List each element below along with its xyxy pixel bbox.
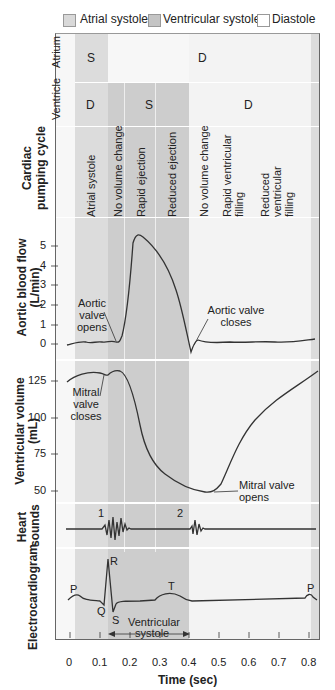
- aortic-tick-4: 4: [40, 259, 46, 271]
- ecg-ylabel: Electrocardiogram: [26, 542, 40, 652]
- mitral-valve-opens-annotation: Mitral valve opens: [239, 479, 299, 503]
- ventricular-volume-curve: [67, 371, 318, 492]
- aortic-ylabel: Aortic blood flow (L/min): [16, 225, 42, 350]
- x-tick-0.5: 0.5: [211, 656, 226, 668]
- ecg-wave-r: R: [110, 555, 118, 567]
- x-tick-0.4: 0.4: [181, 656, 196, 668]
- x-tick-0.1: 0.1: [92, 656, 107, 668]
- x-tick-0: 0: [66, 656, 72, 668]
- x-axis-label: Time (sec): [158, 673, 217, 687]
- volume-tick-100: 100: [28, 411, 46, 423]
- x-tick-0.3: 0.3: [152, 656, 167, 668]
- sounds-ylabel-line2: sounds: [29, 507, 42, 547]
- volume-tick-50: 50: [34, 484, 46, 496]
- ecg-wave-p2: P: [307, 582, 314, 594]
- aortic-flow-curve: [67, 235, 315, 352]
- aortic-tick-5: 5: [40, 239, 46, 251]
- x-tick-0.2: 0.2: [122, 656, 137, 668]
- aortic-tick-3: 3: [40, 278, 46, 290]
- curves: [66, 235, 318, 612]
- ecg-wave-t: T: [168, 580, 175, 592]
- heart-sound-2-label: 2: [177, 507, 183, 519]
- sounds-ylabel: Heart sounds: [16, 507, 42, 547]
- ecg-wave-q: Q: [97, 605, 106, 617]
- arrow-left-icon: [108, 631, 115, 637]
- ecg-wave-p1: P: [70, 583, 77, 595]
- aortic-tick-2: 2: [40, 298, 46, 310]
- aortic-valve-closes-annotation: Aortic valve closes: [205, 304, 267, 328]
- aortic-valve-opens-annotation: Aortic valve opens: [72, 297, 112, 333]
- x-tick-0.7: 0.7: [271, 656, 286, 668]
- x-ticks: [70, 632, 309, 638]
- x-tick-0.8: 0.8: [301, 656, 316, 668]
- volume-tick-125: 125: [28, 374, 46, 386]
- ventricular-systole-label-line2: systole: [135, 627, 169, 639]
- x-tick-0.6: 0.6: [241, 656, 256, 668]
- volume-tick-75: 75: [34, 447, 46, 459]
- aortic-tick-0: 0: [40, 337, 46, 349]
- y-ticks: [51, 246, 58, 491]
- aortic-tick-1: 1: [40, 318, 46, 330]
- heart-sound-1-label: 1: [98, 507, 104, 519]
- ecg-wave-s: S: [112, 614, 119, 626]
- mitral-valve-closes-annotation: Mitral valve closes: [68, 386, 104, 422]
- heart-sounds-trace: [66, 517, 316, 540]
